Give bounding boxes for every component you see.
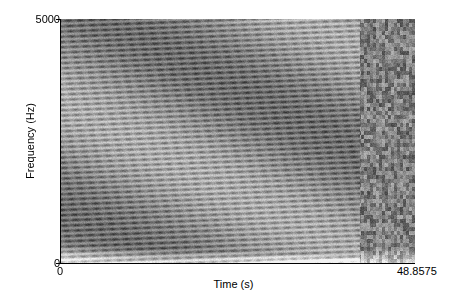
- y-tick-label-max: 5000: [36, 13, 60, 25]
- x-axis-line: [60, 263, 415, 264]
- y-axis-label: Frequency (Hz): [24, 103, 36, 179]
- plot-area: [61, 19, 415, 263]
- x-axis-label-text: Time (s): [214, 278, 254, 290]
- spectrogram-image: [61, 19, 415, 263]
- x-tick-label-max: 48.8575: [397, 265, 437, 277]
- x-axis-label: Time (s): [0, 278, 453, 290]
- spectrogram-figure: 5000 0 0 48.8575 Time (s) Frequency (Hz): [0, 0, 453, 306]
- x-tick-label-min: 0: [57, 265, 63, 277]
- y-axis-line: [60, 19, 61, 264]
